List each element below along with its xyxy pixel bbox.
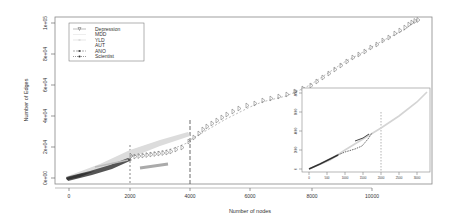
- y-tick-label: 8e+04: [42, 47, 48, 61]
- x-tick-label: 2000: [124, 193, 135, 199]
- inset-x-tick: 1500: [360, 176, 367, 180]
- inset-x-tick: 0: [308, 176, 310, 180]
- inset-y-tick: 0: [294, 168, 298, 170]
- y-tick-label: 2e+04: [42, 140, 48, 154]
- x-axis-label: Number of nodes: [229, 208, 271, 214]
- y-tick-label: 6e+04: [42, 78, 48, 92]
- circle-icon: [78, 55, 80, 57]
- inset-x-tick: 2500: [396, 176, 403, 180]
- series-ano-scientist: [66, 158, 132, 181]
- inset-x-tick: 1000: [342, 176, 349, 180]
- y-tick-label: 4e+04: [42, 109, 48, 123]
- inset-y-tick: 4000: [294, 127, 298, 134]
- inset-y-tick: 2000: [294, 146, 298, 153]
- chart-canvas: 0e+00 2e+04 4e+04 6e+04 8e+04 1e+05 Numb…: [0, 0, 457, 224]
- inset-frame: [302, 88, 430, 172]
- x-tick-label: 6000: [244, 193, 255, 199]
- y-tick-label: 0e+00: [42, 171, 48, 185]
- inset-x-tick: 2000: [378, 176, 385, 180]
- inset-y-tick: 6000: [294, 108, 298, 115]
- series-aut: [140, 164, 168, 168]
- y-axis-label: Number of Edges: [23, 78, 29, 121]
- y-tick-label: 1e+05: [42, 16, 48, 30]
- inset-y-tick: 8000: [294, 89, 298, 96]
- inset-x-tick: 500: [324, 176, 329, 180]
- y-axis: [51, 23, 55, 178]
- x-tick-label: 0: [68, 193, 71, 199]
- x-axis: [55, 188, 372, 191]
- x-tick-label: 8000: [306, 193, 317, 199]
- legend: Depression MDD YLD AUT ANO Scientist: [69, 23, 144, 61]
- x-tick-label: 4000: [184, 193, 195, 199]
- inset-chart: 0 2000 4000 6000 8000 0 500 1000 1500 20…: [294, 88, 430, 180]
- x-tick-label: 10000: [365, 193, 379, 199]
- inset-x-tick: 3000: [414, 176, 421, 180]
- square-icon: [79, 39, 81, 41]
- legend-item: Scientist: [95, 53, 115, 59]
- square-icon: [79, 50, 81, 52]
